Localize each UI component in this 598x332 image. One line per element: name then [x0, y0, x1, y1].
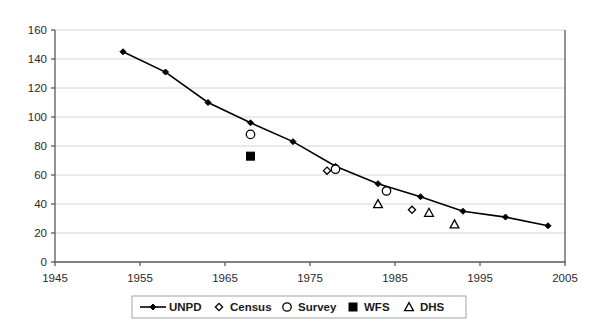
series-unpd: [120, 49, 551, 229]
line-chart: 020406080100120140160 194519551965197519…: [0, 0, 598, 332]
data-point-unpd: [545, 223, 551, 229]
y-tick-label: 0: [41, 256, 47, 268]
data-series-group: [120, 49, 551, 229]
legend-label: Survey: [298, 301, 337, 313]
chart-legend: UNPDCensusSurveyWFSDHS: [132, 296, 466, 318]
data-point-survey: [382, 187, 390, 195]
data-point-unpd: [503, 214, 509, 220]
series-survey: [246, 130, 390, 195]
data-point-unpd: [248, 120, 254, 126]
y-tick-label: 160: [28, 24, 47, 36]
legend-item-wfs[interactable]: WFS: [349, 301, 390, 313]
y-tick-label: 60: [34, 169, 47, 181]
chart-container: 020406080100120140160 194519551965197519…: [0, 0, 598, 332]
data-point-dhs: [450, 220, 459, 228]
x-tick-label: 1955: [127, 272, 153, 284]
data-point-survey: [331, 165, 339, 173]
data-point-unpd: [120, 49, 126, 55]
series-wfs: [247, 152, 255, 160]
x-tick-label: 1975: [297, 272, 323, 284]
legend-marker-icon: [283, 303, 291, 311]
series-line-unpd: [123, 52, 548, 226]
data-point-dhs: [425, 208, 434, 216]
legend-label: UNPD: [169, 301, 202, 313]
x-tick-label: 2005: [552, 272, 578, 284]
data-point-unpd: [375, 181, 381, 187]
data-point-unpd: [460, 208, 466, 214]
legend-label: DHS: [420, 301, 445, 313]
x-tick-label: 1995: [467, 272, 493, 284]
x-tick-label: 1985: [382, 272, 408, 284]
gridlines: [55, 30, 565, 233]
data-point-census: [323, 167, 330, 174]
data-point-survey: [246, 130, 254, 138]
x-axis-tick-labels: 1945195519651975198519952005: [42, 262, 578, 284]
y-tick-label: 100: [28, 111, 47, 123]
data-point-wfs: [247, 152, 255, 160]
data-point-unpd: [418, 194, 424, 200]
legend-marker-icon: [349, 303, 357, 311]
x-tick-label: 1965: [212, 272, 238, 284]
y-tick-label: 20: [34, 227, 47, 239]
legend-label: Census: [230, 301, 272, 313]
data-point-unpd: [290, 139, 296, 145]
y-tick-label: 40: [34, 198, 47, 210]
y-axis-tick-labels: 020406080100120140160: [28, 24, 55, 268]
y-tick-label: 140: [28, 53, 47, 65]
y-tick-label: 120: [28, 82, 47, 94]
x-tick-label: 1945: [42, 272, 68, 284]
legend-label: WFS: [364, 301, 390, 313]
y-tick-label: 80: [34, 140, 47, 152]
data-point-census: [408, 206, 415, 213]
